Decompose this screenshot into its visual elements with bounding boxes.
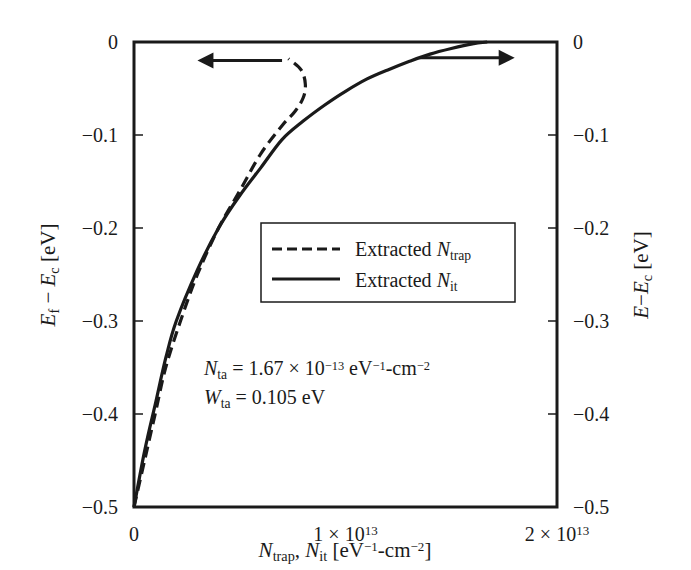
text-run: ta xyxy=(217,367,227,382)
y-tick-label-right: −0.5 xyxy=(573,496,609,518)
text-run: = 0.105 eV xyxy=(230,386,325,408)
arrow-right-head-icon xyxy=(499,50,515,66)
text-run: trap xyxy=(450,248,471,263)
chart: 0−0.1−0.2−0.3−0.4−0.5 0−0.1−0.2−0.3−0.4−… xyxy=(0,0,691,570)
text-run: [eV] xyxy=(36,224,60,268)
y-tick-label-left: −0.2 xyxy=(82,217,118,239)
text-run: [eV xyxy=(327,538,364,562)
y-tick-label-right: −0.3 xyxy=(573,310,609,332)
y-tick-label-right: 0 xyxy=(573,31,583,53)
text-run: ] xyxy=(424,538,431,562)
text-run: N xyxy=(258,538,274,562)
text-run: -cm xyxy=(386,357,418,379)
text-run: [eV] xyxy=(629,231,653,275)
y-tick-label-right: −0.4 xyxy=(573,403,609,425)
y-tick-label-right: −0.2 xyxy=(573,217,609,239)
y-axis-left-title: Ef − Ec [eV] xyxy=(36,224,62,328)
text-run: trap xyxy=(273,548,295,564)
text-run: ta xyxy=(221,396,231,411)
text-run: E xyxy=(36,273,60,287)
y-tick-label-left: −0.3 xyxy=(82,310,118,332)
text-run: Extracted xyxy=(355,269,437,291)
text-run: E xyxy=(629,306,653,320)
text-run: it xyxy=(450,279,458,294)
text-run: −1 xyxy=(372,359,385,373)
x-tick-label: 2 × 1013 xyxy=(525,523,589,545)
annotation-nta: Nta = 1.67 × 10−13 eV−1-cm−2 xyxy=(203,357,430,382)
text-run: N xyxy=(304,538,320,562)
x-axis-title: Ntrap, Nit [eV−1-cm−2] xyxy=(258,538,432,564)
y-tick-label-left: −0.5 xyxy=(82,496,118,518)
y-tick-label-right: −0.1 xyxy=(573,124,609,146)
y-tick-label-left: 0 xyxy=(108,31,118,53)
text-run: −1 xyxy=(364,539,378,554)
arrow-left-head-icon xyxy=(197,53,213,69)
text-run: −2 xyxy=(411,539,425,554)
text-run: Extracted xyxy=(355,238,437,260)
text-run: − xyxy=(629,294,653,306)
legend: Extracted Ntrap Extracted Nit xyxy=(261,223,515,302)
text-run: E xyxy=(36,313,60,327)
text-run: = 1.67 × 10 xyxy=(227,357,325,379)
y-axis-right-title: E−Ec [eV] xyxy=(629,231,655,320)
annotation-wta: Wta = 0.105 eV xyxy=(204,386,326,411)
y-tick-label-left: −0.4 xyxy=(82,403,118,425)
text-run: it xyxy=(319,548,327,564)
text-run: E xyxy=(629,281,653,295)
legend-label-nit: Extracted Nit xyxy=(355,269,458,294)
text-run: −13 xyxy=(325,359,344,373)
text-run: -cm xyxy=(378,538,411,562)
text-run: −2 xyxy=(417,359,430,373)
y-tick-label-left: −0.1 xyxy=(82,124,118,146)
text-run: eV xyxy=(344,357,373,379)
x-tick-label: 0 xyxy=(129,523,139,545)
text-run: − xyxy=(36,286,60,308)
text-run: , xyxy=(295,538,306,562)
